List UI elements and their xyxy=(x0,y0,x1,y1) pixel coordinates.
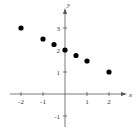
y-tick-label: 3 xyxy=(57,25,61,33)
data-point xyxy=(18,25,23,30)
y-tick-label: -1 xyxy=(54,113,60,121)
y-tick-label: 1 xyxy=(57,69,61,77)
data-point xyxy=(51,42,56,47)
data-point xyxy=(73,53,78,58)
x-tick-label: 1 xyxy=(85,98,89,106)
data-point xyxy=(62,47,67,52)
data-point xyxy=(106,69,111,74)
data-point xyxy=(84,58,89,63)
x-tick-label: 2 xyxy=(107,98,111,106)
x-axis-label: x xyxy=(128,91,133,99)
x-tick-label: -1 xyxy=(40,98,46,106)
y-tick-label: 2 xyxy=(57,47,61,55)
scatter-chart: -2-112-1123 x y xyxy=(0,0,139,135)
data-point xyxy=(40,36,45,41)
x-axis-arrow-icon xyxy=(121,92,127,96)
axes xyxy=(10,8,127,127)
x-tick-label: -2 xyxy=(18,98,24,106)
y-axis-label: y xyxy=(66,1,71,9)
